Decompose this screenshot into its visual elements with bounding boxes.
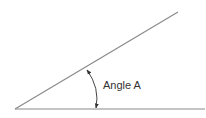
angle-arc-arrow <box>87 70 97 108</box>
angle-diagram: Angle A <box>0 0 206 118</box>
angle-label: Angle A <box>103 79 142 91</box>
